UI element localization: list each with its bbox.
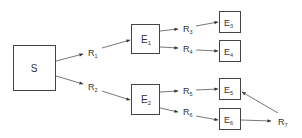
- relation-r5-label: R5: [183, 86, 193, 97]
- node-e3: E3: [220, 12, 241, 33]
- node-e2: E2: [132, 85, 160, 115]
- relation-r4-label: R4: [183, 44, 193, 55]
- relation-r1-label: R1: [88, 48, 98, 59]
- edge-e2-r5: [160, 91, 178, 92]
- relation-diagram: S E1 E2 E3 E4 E5 E6 R1 R2 R3 R4 R5: [0, 0, 302, 138]
- edge-r1-e1: [102, 40, 130, 48]
- edge-s-r1: [56, 54, 83, 61]
- node-s-label: S: [31, 63, 38, 74]
- edge-e2-r6: [160, 108, 178, 112]
- node-e6: E6: [220, 109, 241, 130]
- edge-r5-e5: [196, 89, 218, 90]
- edge-e6-r7: [241, 120, 271, 121]
- edge-r6-e6: [196, 116, 218, 120]
- edge-s-r2: [56, 76, 83, 84]
- node-e4: E4: [220, 41, 241, 62]
- edge-r7-e5: [242, 92, 278, 113]
- edge-e1-r4: [160, 47, 178, 48]
- relation-r2-label: R2: [88, 82, 98, 93]
- edge-r4-e4: [196, 50, 218, 51]
- relation-r7-label: R7: [278, 117, 288, 128]
- edge-e1-r3: [160, 29, 178, 31]
- edge-r3-e3: [196, 22, 218, 26]
- node-s: S: [14, 46, 56, 91]
- relation-r6-label: R6: [183, 107, 193, 118]
- node-e1: E1: [132, 25, 160, 54]
- relation-r3-label: R3: [183, 24, 193, 35]
- edge-r2-e2: [102, 91, 130, 100]
- node-e5: E5: [220, 79, 241, 100]
